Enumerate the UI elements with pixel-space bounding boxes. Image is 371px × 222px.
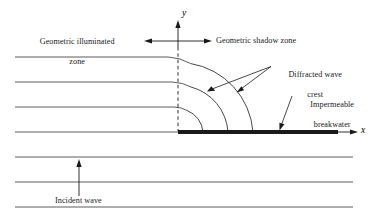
breakwater-leader-arrowhead-icon <box>279 123 284 131</box>
label-geometric-shadow-zone: Geometric shadow zone <box>216 36 296 46</box>
diffracted-leader-line-middle <box>212 67 271 90</box>
incident-wave-arrowhead-icon <box>76 159 81 167</box>
illuminated-zone-line-1: Geometric illuminated <box>40 37 115 46</box>
wave-crest-line-2 <box>15 82 191 87</box>
label-geometric-illuminated-zone: Geometric illuminated zone <box>14 27 132 77</box>
label-incident-wave: Incident wave <box>55 196 102 206</box>
diffracted-arc-inner <box>187 111 203 133</box>
diffracted-leader-line-outer <box>241 67 271 90</box>
axis-label-x: x <box>361 125 365 135</box>
wave-diffraction-diagram: Geometric illuminated zone Geometric sha… <box>0 0 371 222</box>
wave-crest-line-3 <box>15 107 187 111</box>
zone-arrow-left-icon <box>144 38 152 43</box>
illuminated-zone-line-2: zone <box>69 57 85 66</box>
label-impermeable-breakwater: Impermeable breakwater <box>292 90 364 140</box>
breakwater-line-2: breakwater <box>314 120 351 129</box>
zone-arrow-right-icon <box>204 38 212 43</box>
diffracted-arc-middle <box>191 87 228 132</box>
diffracted-leader-arrowhead-middle-icon <box>207 86 215 91</box>
diffracted-crest-line-1: Diffracted wave <box>288 70 342 79</box>
y-axis-arrowhead-icon <box>175 20 180 28</box>
breakwater-line-1: Impermeable <box>310 100 354 109</box>
axis-label-y: y <box>182 8 186 18</box>
